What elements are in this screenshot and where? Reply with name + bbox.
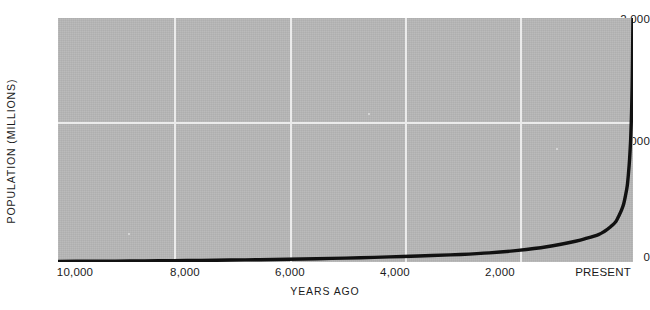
population-curve — [58, 18, 633, 262]
plot-area — [58, 18, 633, 262]
x-axis-title: YEARS AGO — [0, 285, 650, 297]
y-axis-title: POPULATION (MILLIONS) — [5, 56, 17, 246]
x-tick-label-present: PRESENT — [558, 266, 648, 279]
y-axis-title-wrapper: POPULATION (MILLIONS) — [0, 60, 22, 250]
population-curve-path — [58, 18, 633, 261]
x-tick-label-4000: 4,000 — [350, 266, 440, 279]
population-growth-chart: POPULATION (MILLIONS) 2,000 1,000 0 10,0… — [0, 0, 650, 310]
x-tick-label-8000: 8,000 — [140, 266, 230, 279]
x-tick-label-6000: 6,000 — [245, 266, 335, 279]
x-tick-label-2000: 2,000 — [455, 266, 545, 279]
x-tick-label-10000: 10,000 — [30, 266, 120, 279]
